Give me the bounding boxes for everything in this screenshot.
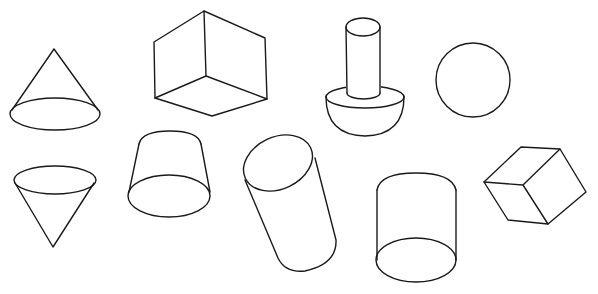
geometric-solids-diagram (0, 0, 598, 294)
cube-large-shape (154, 11, 267, 116)
cone-inverted-shape (14, 166, 96, 247)
cone-upright-shape (10, 49, 100, 130)
cube-small-tilted-shape (484, 147, 586, 224)
cylinder-upright-shape (376, 173, 456, 282)
cylinder-on-hemisphere-shape (326, 18, 404, 136)
cylinder-tilted-shape (234, 124, 336, 271)
sphere-shape (436, 43, 510, 117)
frustum-shape (128, 131, 210, 217)
diagram-svg (0, 0, 598, 294)
